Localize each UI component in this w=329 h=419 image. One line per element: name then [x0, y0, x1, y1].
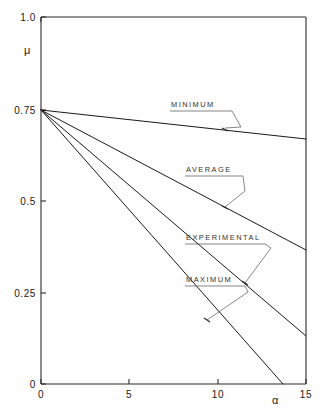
y-tick-label-0: 0: [30, 379, 36, 390]
series-label-average: AVERAGE: [186, 165, 232, 174]
x-tick-label-0: 0: [38, 389, 44, 400]
plot-frame: [41, 17, 306, 384]
annotation-minimum: MINIMUM: [170, 100, 241, 131]
line-chart-svg: 1.0 0.75 0.5 0.25 0 0 5 10 15 μ α MINIMU…: [0, 0, 329, 419]
series-label-maximum: MAXIMUM: [186, 275, 232, 284]
series-line-maximum: [41, 110, 283, 384]
series-line-average: [41, 110, 306, 250]
series-label-minimum: MINIMUM: [171, 100, 215, 109]
y-tick-label-0.25: 0.25: [14, 288, 36, 299]
series-line-minimum: [41, 110, 306, 139]
x-tick-label-5: 5: [126, 389, 132, 400]
annotation-maximum: MAXIMUM: [185, 275, 248, 322]
x-tick-label-15: 15: [300, 389, 312, 400]
y-tick-label-1.0: 1.0: [20, 12, 36, 23]
series-label-experimental: EXPERIMENTAL: [186, 233, 261, 242]
y-tick-label-0.75: 0.75: [14, 105, 36, 116]
x-tick-label-10: 10: [212, 389, 224, 400]
x-axis-title: α: [272, 394, 279, 406]
y-tick-label-0.5: 0.5: [20, 196, 36, 207]
chart-figure: 1.0 0.75 0.5 0.25 0 0 5 10 15 μ α MINIMU…: [0, 0, 329, 419]
y-axis-title: μ: [24, 44, 30, 56]
series-line-experimental: [41, 110, 306, 336]
x-axis-ticks: [41, 17, 306, 384]
y-axis-ticks: [41, 17, 46, 384]
